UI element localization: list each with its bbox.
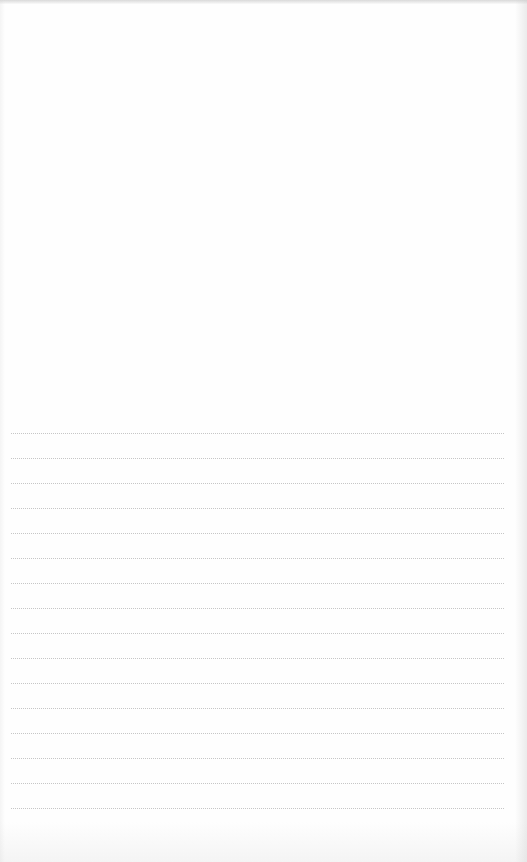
ruled-line xyxy=(11,633,504,634)
ruled-line xyxy=(11,808,504,809)
blank-upper-area xyxy=(11,20,504,420)
scan-bottom-edge xyxy=(0,822,527,862)
ruled-line xyxy=(11,508,504,509)
ruled-line xyxy=(11,583,504,584)
notebook-page xyxy=(0,0,527,862)
scan-right-edge xyxy=(515,0,527,862)
ruled-line xyxy=(11,708,504,709)
ruled-line xyxy=(11,683,504,684)
ruled-line xyxy=(11,433,504,434)
scan-top-edge xyxy=(0,0,527,4)
ruled-line xyxy=(11,608,504,609)
ruled-line xyxy=(11,458,504,459)
ruled-line xyxy=(11,758,504,759)
ruled-line xyxy=(11,733,504,734)
ruled-line xyxy=(11,558,504,559)
ruled-line xyxy=(11,533,504,534)
ruled-line xyxy=(11,658,504,659)
scan-left-edge xyxy=(0,0,5,862)
ruled-line xyxy=(11,783,504,784)
ruled-line xyxy=(11,483,504,484)
